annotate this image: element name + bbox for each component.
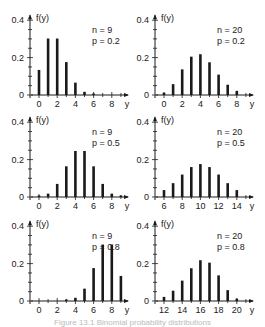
parameter-annotation: p = 0.2: [92, 36, 120, 46]
bar: [65, 300, 68, 302]
bar: [190, 268, 193, 301]
bar: [217, 275, 220, 301]
bar: [163, 190, 166, 197]
bar: [92, 166, 95, 197]
y-tick-label: 0.4: [136, 15, 149, 25]
chart-panel: 00.20.4f(y)68101214yn = 20p = 0.5: [136, 115, 254, 211]
y-axis-label: f(y): [36, 115, 49, 125]
x-tick-label: 14: [177, 305, 187, 315]
bar: [208, 62, 211, 95]
bar: [83, 151, 86, 197]
x-axis-label: y: [250, 99, 255, 109]
y-tick-label: 0.2: [11, 259, 24, 269]
x-tick-label: 8: [180, 201, 185, 211]
y-axis-arrow-icon: [28, 14, 32, 19]
bar: [163, 297, 166, 301]
bar: [226, 183, 229, 197]
x-tick-label: 14: [232, 201, 242, 211]
x-axis-arrow-icon: [124, 299, 129, 303]
y-tick-label: 0.2: [136, 155, 149, 165]
y-tick-label: 0.2: [11, 53, 24, 63]
parameter-annotation: p = 0.8: [92, 242, 120, 252]
x-axis-label: y: [250, 201, 255, 211]
bar: [217, 175, 220, 197]
x-tick-label: 16: [195, 305, 205, 315]
y-axis-arrow-icon: [28, 116, 32, 121]
chart-panel: 00.20.4f(y)02468yn = 9p = 0.8: [11, 219, 129, 315]
chart-panel: 00.20.4f(y)1214161820yn = 20p = 0.8: [136, 219, 254, 315]
bar: [208, 263, 211, 301]
bar: [236, 190, 239, 197]
bar: [226, 290, 229, 301]
x-tick-label: 20: [232, 305, 242, 315]
x-tick-label: 6: [91, 99, 96, 109]
y-tick-label: 0.4: [11, 117, 24, 127]
x-tick-label: 2: [55, 305, 60, 315]
binomial-distribution-figure: 00.20.4f(y)02468yn = 9p = 0.200.20.4f(y)…: [0, 0, 265, 327]
x-axis-arrow-icon: [249, 195, 254, 199]
figure-caption: Figure 13.1 Binomial probability distrib…: [0, 318, 265, 327]
x-axis-arrow-icon: [249, 93, 254, 97]
chart-panel: 00.20.4f(y)02468yn = 9p = 0.5: [11, 115, 129, 211]
y-tick-label: 0: [144, 192, 149, 202]
bar: [172, 183, 175, 197]
x-tick-label: 0: [36, 305, 41, 315]
x-tick-label: 0: [36, 201, 41, 211]
y-axis-arrow-icon: [153, 220, 157, 225]
bar: [181, 281, 184, 301]
bar: [208, 167, 211, 197]
x-tick-label: 6: [216, 99, 221, 109]
x-axis-label: y: [250, 305, 255, 315]
x-tick-label: 2: [55, 201, 60, 211]
bar: [56, 184, 59, 197]
y-axis-label: f(y): [161, 13, 174, 23]
bar: [172, 84, 175, 95]
x-axis-label: y: [125, 99, 130, 109]
bar: [199, 260, 202, 301]
parameter-annotation: n = 9: [92, 25, 112, 35]
x-tick-label: 2: [180, 99, 185, 109]
x-tick-label: 6: [91, 305, 96, 315]
x-tick-label: 6: [161, 201, 166, 211]
chart-panel: 00.20.4f(y)02468yn = 20p = 0.2: [136, 13, 254, 109]
y-axis-label: f(y): [161, 219, 174, 229]
y-axis-label: f(y): [161, 115, 174, 125]
parameter-annotation: n = 20: [217, 127, 242, 137]
bar: [226, 85, 229, 95]
x-tick-label: 4: [73, 305, 78, 315]
bar: [199, 54, 202, 95]
bar: [111, 245, 114, 301]
x-axis-label: y: [125, 201, 130, 211]
bar: [120, 196, 123, 198]
bar: [163, 93, 166, 95]
bar: [101, 245, 104, 301]
y-axis-label: f(y): [36, 13, 49, 23]
bar: [101, 184, 104, 197]
x-tick-label: 10: [195, 201, 205, 211]
x-axis-arrow-icon: [124, 93, 129, 97]
y-tick-label: 0: [19, 296, 24, 306]
chart-panel: 00.20.4f(y)02468yn = 9p = 0.2: [11, 13, 129, 109]
x-tick-label: 12: [214, 201, 224, 211]
parameter-annotation: p = 0.2: [217, 36, 245, 46]
y-tick-label: 0.2: [136, 53, 149, 63]
y-tick-label: 0.4: [136, 221, 149, 231]
x-axis-arrow-icon: [249, 299, 254, 303]
bar: [172, 291, 175, 301]
bar: [65, 166, 68, 197]
parameter-annotation: p = 0.5: [92, 138, 120, 148]
bar: [92, 268, 95, 301]
y-tick-label: 0: [19, 90, 24, 100]
parameter-annotation: n = 20: [217, 25, 242, 35]
x-tick-label: 8: [234, 99, 239, 109]
bar: [199, 164, 202, 197]
y-axis-label: f(y): [36, 219, 49, 229]
parameter-annotation: n = 9: [92, 231, 112, 241]
bar: [92, 94, 95, 96]
parameter-annotation: p = 0.8: [217, 242, 245, 252]
bar: [65, 62, 68, 95]
y-tick-label: 0: [144, 296, 149, 306]
x-tick-label: 4: [73, 201, 78, 211]
y-axis-arrow-icon: [153, 116, 157, 121]
bar: [38, 70, 41, 95]
